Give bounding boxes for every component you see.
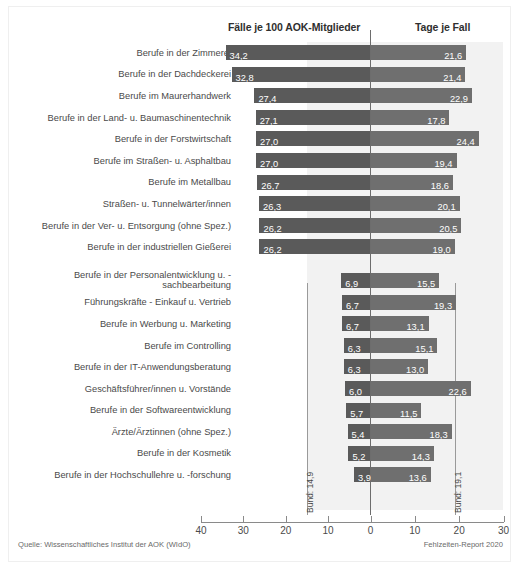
chart-plot-area: Fälle je 100 AOK-Mitglieder Tage je Fall… <box>0 0 521 571</box>
left-bar-value: 27,4 <box>254 92 280 107</box>
left-bar-value: 26,2 <box>259 222 285 237</box>
right-bar-value: 19,4 <box>430 157 456 172</box>
bar-row: Berufe in Werbung u. Marketing6,713,1 <box>0 313 521 335</box>
left-bar-value: 27,0 <box>256 135 282 150</box>
axis-tick-label: 30 <box>498 525 509 536</box>
axis-tick-label: 30 <box>238 525 249 536</box>
category-label: Berufe in Werbung u. Marketing <box>100 319 231 330</box>
left-bar-value: 26,2 <box>259 243 285 258</box>
axis-tick <box>504 516 505 522</box>
right-bar: 15,1 <box>371 338 438 353</box>
right-bar-value: 18,3 <box>426 428 452 443</box>
left-bar: 27,0 <box>256 153 370 168</box>
left-bar-value: 6,7 <box>342 320 363 335</box>
left-bar: 6,3 <box>344 359 371 374</box>
left-bar-value: 32,8 <box>232 71 258 86</box>
axis-tick <box>415 516 416 522</box>
right-bar-value: 24,4 <box>453 135 479 150</box>
bar-row: Berufe im Maurerhandwerk27,422,9 <box>0 85 521 107</box>
right-bar: 20,5 <box>371 218 462 233</box>
category-label: Führungskräfte - Einkauf u. Vertrieb <box>16 297 231 308</box>
category-label: Straßen- u. Tunnelwärter/innen <box>103 199 231 210</box>
bar-row: Geschäftsführer/innen u. Vorstände6,022,… <box>0 378 521 400</box>
axis-tick <box>328 516 329 522</box>
bar-row: Berufe im Controlling6,315,1 <box>0 335 521 357</box>
left-bar: 6,7 <box>342 295 370 310</box>
right-bar: 22,6 <box>371 381 471 396</box>
right-bar-value: 22,6 <box>445 385 471 400</box>
left-bar-value: 26,7 <box>257 179 283 194</box>
left-bar: 6,0 <box>345 381 370 396</box>
bar-row: Berufe in der Land- u. Baumaschinentechn… <box>0 107 521 129</box>
right-bar-value: 21,6 <box>440 49 466 64</box>
left-bar: 6,3 <box>344 338 371 353</box>
left-bar: 26,2 <box>259 239 370 254</box>
category-label: Berufe in der Zimmerei <box>136 48 231 59</box>
right-bar-value: 14,3 <box>408 450 434 465</box>
left-bar: 26,7 <box>257 175 370 190</box>
axis-tick <box>201 516 202 522</box>
left-bar-value: 5,7 <box>346 407 367 422</box>
right-bar: 18,6 <box>371 175 453 190</box>
right-bar-value: 13,0 <box>402 363 428 378</box>
bar-row: Berufe in der Softwareentwicklung5,711,5 <box>0 400 521 422</box>
category-label: Berufe im Maurerhandwerk <box>119 91 231 102</box>
left-bar-value: 6,9 <box>341 277 362 292</box>
right-bar-value: 18,6 <box>427 179 453 194</box>
axis-tick <box>459 516 460 522</box>
right-bar: 11,5 <box>371 403 422 418</box>
bar-row: Berufe in der Hochschullehre u. -forschu… <box>0 464 521 486</box>
right-bar: 14,3 <box>371 446 434 461</box>
right-axis-title: Tage je Fall <box>415 21 470 33</box>
category-label: Berufe in der Dachdeckerei <box>118 69 231 80</box>
left-bar: 5,4 <box>348 424 371 439</box>
right-bar: 24,4 <box>371 131 479 146</box>
bar-row: Ärzte/Ärztinnen (ohne Spez.)5,418,3 <box>0 421 521 443</box>
left-bar: 6,7 <box>342 316 370 331</box>
category-label: Berufe in der Kosmetik <box>137 448 231 459</box>
axis-tick-label: 20 <box>280 525 291 536</box>
category-label: Berufe in der Ver- u. Entsorgung (ohne S… <box>16 220 231 231</box>
bar-row: Berufe in der Kosmetik5,214,3 <box>0 443 521 465</box>
left-bar: 34,2 <box>226 45 371 60</box>
right-bar: 13,6 <box>371 467 431 482</box>
left-bar: 32,8 <box>232 67 371 82</box>
left-bar: 3,9 <box>354 467 371 482</box>
bar-row: Berufe in der Dachdeckerei32,821,4 <box>0 64 521 86</box>
axis-tick <box>243 516 244 522</box>
right-bar: 13,1 <box>371 316 429 331</box>
axis-tick-label: 10 <box>323 525 334 536</box>
left-bar-value: 6,0 <box>345 385 366 400</box>
right-bar: 19,3 <box>371 295 457 310</box>
right-bar-value: 15,5 <box>413 277 439 292</box>
category-label: Berufe in der Softwareentwicklung <box>90 405 231 416</box>
right-bar: 15,5 <box>371 273 440 288</box>
right-bar-value: 21,4 <box>439 71 465 86</box>
bar-row: Berufe in der Ver- u. Entsorgung (ohne S… <box>0 215 521 237</box>
right-bar-value: 13,6 <box>405 471 431 486</box>
category-label: Berufe im Straßen- u. Asphaltbau <box>94 155 231 166</box>
left-bar-value: 34,2 <box>226 49 252 64</box>
left-bar-value: 5,2 <box>348 450 369 465</box>
axis-tick-label: 10 <box>409 525 420 536</box>
left-bar: 27,1 <box>256 110 371 125</box>
bar-row: Berufe in der Forstwirtschaft27,024,4 <box>0 128 521 150</box>
axis-tick <box>286 516 287 522</box>
right-bar-value: 17,8 <box>423 114 449 129</box>
category-label: Berufe in der Land- u. Baumaschinentechn… <box>16 112 231 123</box>
right-bar: 19,0 <box>371 239 455 254</box>
left-bar: 26,3 <box>259 196 370 211</box>
bar-row: Berufe im Metallbau26,718,6 <box>0 172 521 194</box>
right-bar: 21,4 <box>371 67 466 82</box>
right-bar-value: 22,9 <box>446 92 472 107</box>
left-bar-value: 5,4 <box>348 428 369 443</box>
left-bar: 5,2 <box>348 446 370 461</box>
bar-row: Berufe in der Zimmerei34,221,6 <box>0 42 521 64</box>
right-bar: 21,6 <box>371 45 467 60</box>
axis-tick-label: 20 <box>454 525 465 536</box>
left-bar-value: 27,1 <box>256 114 282 129</box>
right-bar: 18,3 <box>371 424 452 439</box>
bar-row: Berufe in der IT-Anwendungsberatung6,313… <box>0 356 521 378</box>
source-note: Quelle: Wissenschaftliches Institut der … <box>18 540 191 549</box>
left-bar: 26,2 <box>259 218 370 233</box>
